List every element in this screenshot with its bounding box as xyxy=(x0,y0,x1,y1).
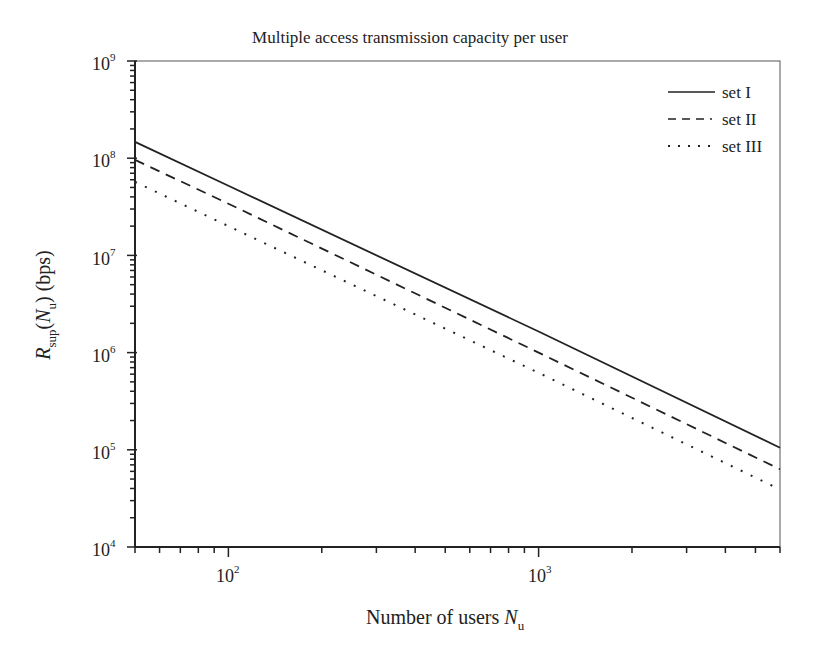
legend-label-set-I: set I xyxy=(722,83,751,102)
x-tick-label-1e3: 103 xyxy=(528,563,552,586)
chart-root: Multiple access transmission capacity pe… xyxy=(0,0,824,663)
y-tick-label-1e4: 104 xyxy=(92,537,116,560)
legend-label-set-III: set III xyxy=(722,137,762,156)
y-tick-label-1e9: 109 xyxy=(92,51,116,74)
series-line-set-I xyxy=(135,142,780,448)
plot-frame xyxy=(135,61,780,547)
series-line-set-II xyxy=(135,160,780,469)
chart-title: Multiple access transmission capacity pe… xyxy=(252,28,568,47)
x-tick-labels: 102 103 xyxy=(216,563,552,586)
y-tick-label-1e5: 105 xyxy=(92,440,116,463)
x-axis-ticks xyxy=(135,547,780,557)
legend: set I set II set III xyxy=(668,83,762,156)
x-axis-label: Number of users Nu xyxy=(366,606,525,633)
y-tick-label-1e8: 108 xyxy=(92,148,116,171)
y-axis-label: Rsup(Nu) (bps) xyxy=(32,250,59,361)
y-tick-label-1e7: 107 xyxy=(92,246,116,269)
y-tick-labels: 109 108 107 106 105 104 xyxy=(92,51,116,560)
y-tick-label-1e6: 106 xyxy=(92,343,116,366)
plot-area xyxy=(135,61,780,547)
x-tick-label-1e2: 102 xyxy=(216,563,240,586)
series-lines xyxy=(135,142,780,490)
series-line-set-III xyxy=(135,182,780,490)
legend-label-set-II: set II xyxy=(722,110,757,129)
